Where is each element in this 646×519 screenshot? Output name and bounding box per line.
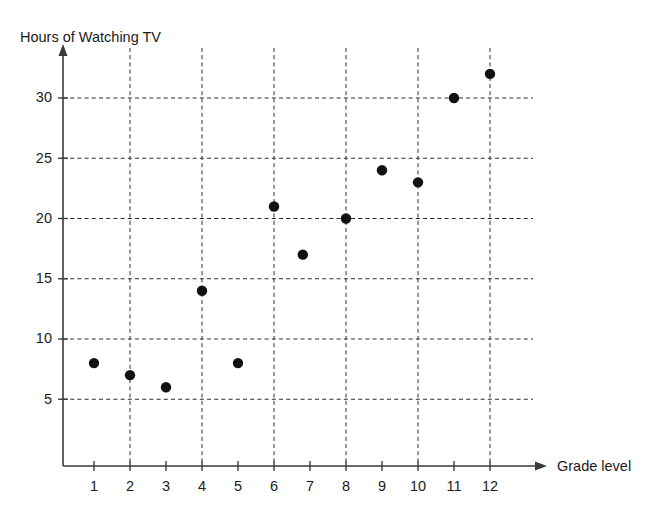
x-axis-tick-label: 1 (90, 478, 98, 494)
horizontal-gridlines (63, 98, 533, 399)
scatter-chart: 51015202530 123456789101112 Hours of Wat… (0, 0, 646, 519)
data-point (377, 165, 387, 175)
plot-canvas: 51015202530 123456789101112 Hours of Wat… (0, 0, 646, 519)
data-point (485, 69, 495, 79)
data-point (125, 370, 135, 380)
x-axis-tick-label: 9 (378, 478, 386, 494)
data-point (233, 358, 243, 368)
y-axis-tick-label: 5 (44, 391, 52, 407)
data-point (341, 213, 351, 223)
y-axis-tick-label: 15 (36, 270, 52, 286)
y-axis-arrow-icon (59, 44, 68, 56)
data-point (449, 93, 459, 103)
data-point (298, 249, 308, 259)
vertical-gridlines (130, 48, 490, 466)
x-axis-tick-label: 7 (306, 478, 314, 494)
x-axis-title: Grade level (557, 458, 631, 474)
x-axis-tick-labels: 123456789101112 (90, 478, 498, 494)
y-axis-tick-label: 20 (36, 210, 52, 226)
x-axis-tick-label: 10 (410, 478, 426, 494)
x-axis-tick-label: 12 (482, 478, 498, 494)
x-axis-tick-label: 3 (162, 478, 170, 494)
data-point (269, 201, 279, 211)
y-axis-title: Hours of Watching TV (20, 29, 161, 45)
data-point (161, 382, 171, 392)
data-point (89, 358, 99, 368)
x-axis-tick-label: 2 (126, 478, 134, 494)
data-point (197, 286, 207, 296)
data-point (413, 177, 423, 187)
data-points (89, 69, 495, 393)
x-axis-tick-label: 5 (234, 478, 242, 494)
y-axis-tick-label: 25 (36, 150, 52, 166)
y-axis-tick-labels: 51015202530 (36, 89, 52, 406)
x-axis-tick-label: 6 (270, 478, 278, 494)
x-axis-tick-label: 11 (446, 478, 461, 494)
x-axis-tick-label: 8 (342, 478, 350, 494)
x-axis-arrow-icon (535, 462, 547, 471)
y-axis-tick-label: 10 (36, 330, 52, 346)
y-axis-tick-label: 30 (36, 89, 52, 105)
x-axis-tick-label: 4 (198, 478, 206, 494)
